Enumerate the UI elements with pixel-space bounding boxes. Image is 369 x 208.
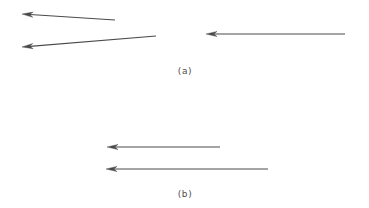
panel-b-caption: (b) xyxy=(178,189,193,199)
panel-a-arrows xyxy=(22,12,345,49)
arrow-a-right xyxy=(206,31,345,36)
vector-diagram-canvas xyxy=(0,0,369,208)
arrow-b-lower xyxy=(106,166,268,171)
panel-b-arrows xyxy=(106,144,268,171)
arrow-a-upper-left xyxy=(22,12,115,20)
figure-root: (a) (b) xyxy=(0,0,369,208)
arrow-b-upper xyxy=(107,144,220,149)
arrow-a-lower-left-shaft xyxy=(30,36,156,46)
arrow-a-upper-left-shaft xyxy=(30,15,115,20)
panel-a-caption: (a) xyxy=(178,66,192,76)
arrow-a-lower-left xyxy=(22,36,156,49)
